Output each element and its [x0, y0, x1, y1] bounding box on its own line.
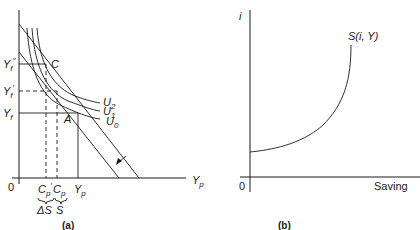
panel-a-origin: 0 [8, 181, 14, 193]
panel-a: Yf′′ Yf′ Yf C A U2 U1 U0 0 Yp Cp′ Cp Yp … [3, 10, 204, 230]
shift-arrow-head [116, 158, 122, 165]
label-yf-double-prime: Yf′′ [3, 56, 16, 73]
tick-cp-prime: Cp′ [38, 181, 52, 198]
saving-curve [250, 45, 351, 152]
indifference-curve-u1 [32, 28, 100, 111]
label-delta-s: ΔS [36, 204, 52, 216]
panel-b-y-label: i [239, 10, 242, 22]
panel-b: i S(i, Y) 0 Saving (b) [239, 10, 420, 230]
panel-a-x-label: Yp [192, 174, 204, 189]
point-c-label: C [51, 58, 59, 70]
budget-line-outer [19, 24, 139, 178]
panel-b-origin: 0 [239, 180, 245, 192]
label-yf: Yf [3, 107, 13, 122]
panel-b-caption: (b) [278, 220, 291, 230]
point-a-label: A [63, 113, 71, 125]
panel-a-caption: (a) [62, 220, 74, 230]
indifference-curve-u0 [27, 28, 100, 119]
saving-curve-label: S(i, Y) [348, 30, 379, 42]
panel-b-x-label: Saving [374, 180, 408, 192]
label-yf-prime: Yf′ [3, 83, 15, 100]
figure: Yf′′ Yf′ Yf C A U2 U1 U0 0 Yp Cp′ Cp Yp … [0, 0, 420, 230]
label-u0: U0 [106, 115, 119, 130]
tick-yp: Yp [74, 183, 86, 198]
tick-cp: Cp [53, 183, 66, 198]
label-s: S [56, 204, 64, 216]
